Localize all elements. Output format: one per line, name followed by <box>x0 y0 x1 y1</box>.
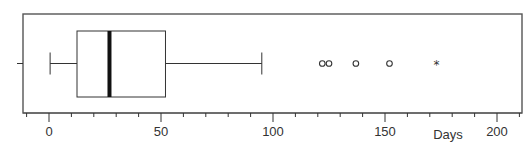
outlier-circle-marker <box>326 61 332 67</box>
outlier-circle-marker <box>387 61 393 67</box>
boxplot-chart: * 050100150200 Days <box>0 0 532 152</box>
x-tick-label: 200 <box>486 124 508 139</box>
outlier-circle-marker <box>319 61 325 67</box>
outlier-star-marker: * <box>434 58 440 72</box>
x-axis-label: Days <box>433 127 463 142</box>
x-tick-label: 100 <box>262 124 284 139</box>
x-tick-label: 150 <box>374 124 396 139</box>
x-tick-label: 50 <box>154 124 168 139</box>
interquartile-box <box>77 31 165 97</box>
x-tick-label: 0 <box>45 124 52 139</box>
outlier-circle-marker <box>353 61 359 67</box>
outliers: * <box>319 58 439 72</box>
